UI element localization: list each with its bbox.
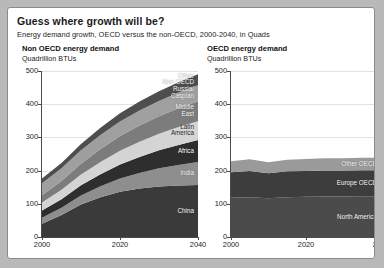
y-axis-tick-label: 500: [205, 67, 227, 75]
x-axis-tick-mark: [306, 237, 307, 240]
y-axis-tick-label: 100: [205, 200, 227, 208]
y-axis-tick-mark: [227, 104, 231, 105]
y-axis-tick-label: 300: [16, 133, 38, 141]
y-axis-tick-mark: [38, 104, 42, 105]
left-series-svg: [42, 71, 198, 237]
x-axis-tick-label: 2040: [373, 240, 375, 249]
right-chart-unit: Quadrillion BTUs: [207, 54, 261, 63]
y-axis-tick-label: 200: [205, 167, 227, 175]
y-axis-tick-mark: [227, 204, 231, 205]
y-axis-tick-mark: [227, 71, 231, 72]
x-axis-tick-mark: [231, 237, 232, 240]
y-axis-tick-mark: [227, 137, 231, 138]
y-axis-tick-label: 500: [16, 67, 38, 75]
left-chart-header: Non OECD energy demand: [22, 44, 119, 53]
y-axis-tick-label: 300: [205, 133, 227, 141]
area-band: [231, 196, 375, 237]
y-axis-tick-label: 400: [205, 100, 227, 108]
y-axis-tick-label: 100: [16, 200, 38, 208]
x-axis-tick-label: 2000: [34, 240, 50, 249]
x-axis-tick-label: 2000: [223, 240, 239, 249]
right-chart-header: OECD energy demand: [207, 44, 287, 53]
non-oecd-chart: ChinaIndiaAfricaLatin AmericaMiddle East…: [16, 65, 202, 251]
area-band: [231, 170, 375, 198]
y-axis-tick-mark: [227, 171, 231, 172]
left-plot-area: ChinaIndiaAfricaLatin AmericaMiddle East…: [42, 71, 198, 237]
y-axis-tick-label: 400: [16, 100, 38, 108]
right-x-axis: [230, 237, 375, 238]
left-chart-unit: Quadrillion BTUs: [22, 54, 76, 63]
y-axis-tick-mark: [38, 71, 42, 72]
right-series-svg: [231, 71, 375, 237]
x-axis-tick-mark: [198, 237, 199, 240]
y-axis-tick-mark: [38, 137, 42, 138]
right-plot-area: North AmericaEurope OECDOther OECD: [231, 71, 375, 237]
oecd-chart: North AmericaEurope OECDOther OECD 01002…: [201, 65, 375, 251]
y-axis-tick-label: 200: [16, 167, 38, 175]
chart-card: Guess where growth will be? Energy deman…: [7, 7, 375, 259]
page-subtitle: Energy demand growth, OECD versus the no…: [17, 30, 270, 39]
x-axis-tick-label: 2020: [298, 240, 314, 249]
x-axis-tick-label: 2020: [112, 240, 128, 249]
x-axis-tick-mark: [42, 237, 43, 240]
page-title: Guess where growth will be?: [17, 15, 164, 27]
y-axis-tick-mark: [38, 171, 42, 172]
x-axis-tick-mark: [120, 237, 121, 240]
y-axis-tick-mark: [38, 204, 42, 205]
